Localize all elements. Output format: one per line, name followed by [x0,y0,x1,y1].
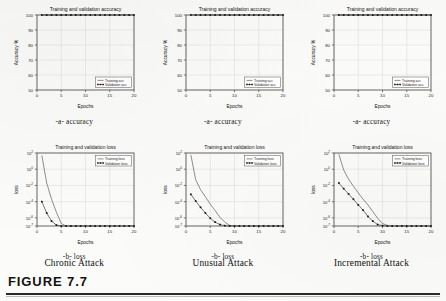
svg-text:0: 0 [36,93,39,98]
loss-chart: 10210010-210-410-610-705101520Training a… [0,140,149,248]
svg-text:10-6: 10-6 [26,215,34,221]
loss-panel: 10210010-210-410-610-705101520Training a… [149,136,298,258]
accuracy-chart: 506070809010005101520Training and valida… [149,2,298,112]
svg-text:Validation loss: Validation loss [105,162,128,166]
svg-text:20: 20 [281,229,286,234]
accuracy-panel: 506070809010005101520Training and valida… [149,0,298,136]
svg-text:Epochs: Epochs [78,104,95,109]
svg-text:60: 60 [326,73,331,78]
accuracy-panel: 506070809010005101520Training and valida… [297,0,446,136]
svg-text:15: 15 [405,93,410,98]
svg-text:50: 50 [177,88,182,93]
svg-text:100: 100 [324,166,331,172]
attack-caption: Chronic Attack [0,258,149,268]
svg-text:10: 10 [83,229,88,234]
loss-panel: 10210010-210-410-610-705101520Training a… [0,136,149,258]
loss-chart: 10210010-210-410-610-705101520Training a… [297,140,446,248]
svg-text:100: 100 [175,13,183,18]
svg-text:100: 100 [176,166,183,172]
svg-text:5: 5 [60,229,63,234]
figure-rule [6,293,440,295]
svg-text:15: 15 [108,229,113,234]
svg-text:Training and validation loss: Training and validation loss [353,144,414,150]
svg-text:Epochs: Epochs [226,240,243,245]
svg-text:Accuracy %: Accuracy % [311,39,316,65]
svg-text:10: 10 [232,229,237,234]
svg-text:loss: loss [311,185,316,194]
svg-text:10: 10 [83,93,88,98]
svg-text:Epochs: Epochs [375,104,392,109]
svg-text:Training and validation accura: Training and validation accuracy [50,6,122,12]
svg-text:5: 5 [358,229,361,234]
loss-panel: 10210010-210-410-610-705101520Training a… [297,136,446,258]
svg-text:10-2: 10-2 [323,182,331,188]
svg-text:20: 20 [429,93,434,98]
svg-text:80: 80 [177,43,182,48]
svg-text:Training and validation loss: Training and validation loss [56,144,117,150]
svg-text:80: 80 [326,43,331,48]
svg-text:80: 80 [29,43,34,48]
svg-text:Epochs: Epochs [78,240,95,245]
svg-text:10-2: 10-2 [26,182,34,188]
attack-caption: Unusual Attack [149,258,298,268]
svg-text:70: 70 [177,58,182,63]
svg-text:10-7: 10-7 [323,223,331,229]
svg-text:10-6: 10-6 [323,215,331,221]
svg-text:0: 0 [333,93,336,98]
plot-column-1: 506070809010005101520Training and valida… [149,0,298,258]
svg-text:50: 50 [326,88,331,93]
accuracy-panel: 506070809010005101520Training and valida… [0,0,149,136]
accuracy-subcaption: -a- accuracy [0,118,149,126]
svg-text:10: 10 [381,229,386,234]
svg-text:Epochs: Epochs [375,240,392,245]
svg-text:60: 60 [29,73,34,78]
svg-text:10-7: 10-7 [175,223,183,229]
attack-caption: Incremental Attack [297,258,446,268]
svg-text:102: 102 [27,150,34,156]
svg-text:Validation acc: Validation acc [105,83,127,87]
svg-text:10: 10 [381,93,386,98]
svg-text:0: 0 [333,229,336,234]
accuracy-subcaption: -a- accuracy [149,118,298,126]
svg-text:Validation loss: Validation loss [403,162,426,166]
figure-label: FIGURE 7.7 [8,274,88,289]
plot-column-2: 506070809010005101520Training and valida… [297,0,446,258]
svg-text:60: 60 [177,73,182,78]
svg-text:10-2: 10-2 [175,182,183,188]
svg-text:5: 5 [358,93,361,98]
svg-text:loss: loss [163,185,168,194]
svg-text:5: 5 [209,93,212,98]
svg-text:Training and validation loss: Training and validation loss [204,144,265,150]
svg-text:Accuracy %: Accuracy % [163,39,168,65]
svg-text:10-4: 10-4 [323,199,331,205]
svg-text:Training and validation accura: Training and validation accuracy [347,6,419,12]
svg-text:10-6: 10-6 [175,215,183,221]
plot-column-0: 506070809010005101520Training and valida… [0,0,149,258]
svg-text:Epochs: Epochs [226,104,243,109]
svg-text:0: 0 [185,229,188,234]
svg-text:15: 15 [108,93,113,98]
svg-text:20: 20 [281,93,286,98]
svg-text:100: 100 [26,13,34,18]
svg-text:loss: loss [14,185,19,194]
figure-rule-secondary [6,296,440,297]
svg-text:10-4: 10-4 [26,199,34,205]
svg-text:90: 90 [29,28,34,33]
accuracy-chart: 506070809010005101520Training and valida… [297,2,446,112]
svg-text:10-7: 10-7 [26,223,34,229]
svg-text:20: 20 [132,93,137,98]
loss-chart: 10210010-210-410-610-705101520Training a… [149,140,298,248]
svg-text:102: 102 [324,150,331,156]
svg-text:15: 15 [405,229,410,234]
accuracy-subcaption: -a- accuracy [297,118,446,126]
svg-text:20: 20 [132,229,137,234]
svg-text:50: 50 [29,88,34,93]
svg-text:90: 90 [326,28,331,33]
svg-text:100: 100 [27,166,34,172]
svg-text:100: 100 [323,13,331,18]
svg-text:102: 102 [176,150,183,156]
svg-text:70: 70 [29,58,34,63]
accuracy-chart: 506070809010005101520Training and valida… [0,2,149,112]
figure-page: 506070809010005101520Training and valida… [0,0,446,301]
svg-text:15: 15 [256,229,261,234]
